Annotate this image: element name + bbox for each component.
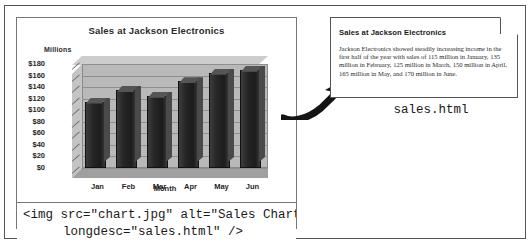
chart-and-code-panel: Sales at Jackson Electronics Millions $1… — [16, 17, 297, 229]
bar-series — [82, 64, 268, 168]
y-axis-tick-label: $20 — [17, 152, 45, 160]
bar — [85, 102, 106, 168]
y-axis-tick-label: $120 — [17, 95, 45, 103]
bar-3d-top — [117, 86, 138, 92]
filename-caption: sales.html — [361, 103, 501, 117]
y-axis-tick-labels: $180$160$140$120$100$80$60$40$20$0 — [15, 56, 45, 180]
bar-3d-side — [135, 86, 141, 162]
bar — [147, 96, 168, 168]
x-axis-title: Month — [45, 184, 285, 193]
bar-3d-side — [259, 66, 265, 162]
bar-3d-side — [228, 69, 234, 162]
bar-3d-top — [241, 66, 262, 72]
bar-3d-side — [197, 77, 203, 162]
y-axis-tick-label: $160 — [17, 72, 45, 80]
bar-3d-side — [104, 98, 110, 162]
y-axis-tick-label: $40 — [17, 141, 45, 149]
y-axis-tick-label: $60 — [17, 129, 45, 137]
y-axis-unit-label: Millions — [44, 46, 72, 53]
bar — [116, 90, 137, 168]
page-paragraph: Jackson Electronics showed steadily incr… — [339, 45, 511, 78]
bar — [209, 73, 230, 168]
code-line-1: <img src="chart.jpg" alt="Sales Chart" — [23, 208, 296, 222]
sales-html-page-preview: Sales at Jackson Electronics Jackson Ele… — [330, 17, 518, 98]
bar-3d-top — [179, 77, 200, 83]
y-axis-tick-label: $140 — [17, 83, 45, 91]
y-axis-tick-label: $80 — [17, 118, 45, 126]
bar-3d-top — [210, 69, 231, 75]
bar-3d-side — [166, 92, 172, 162]
figure-frame: Sales at Jackson Electronics Millions $1… — [4, 5, 526, 239]
bar — [178, 81, 199, 168]
y-axis-tick-label: $180 — [17, 60, 45, 68]
chart-3d-floor — [72, 168, 268, 179]
chart-title: Sales at Jackson Electronics — [17, 25, 296, 36]
y-axis-tick-label: $100 — [17, 106, 45, 114]
bar — [240, 70, 261, 168]
page-heading: Sales at Jackson Electronics — [339, 28, 499, 37]
gridline — [82, 168, 268, 169]
code-line-2: longdesc="sales.html" /> — [63, 225, 243, 239]
y-axis-tick-label: $0 — [17, 164, 45, 172]
plot-area: $180$160$140$120$100$80$60$40$20$0 JanFe… — [45, 56, 285, 180]
bar-3d-top — [148, 92, 169, 98]
code-snippet: <img src="chart.jpg" alt="Sales Chart" l… — [17, 204, 296, 245]
sales-bar-chart: Sales at Jackson Electronics Millions $1… — [17, 18, 296, 203]
bar-3d-top — [86, 98, 107, 104]
